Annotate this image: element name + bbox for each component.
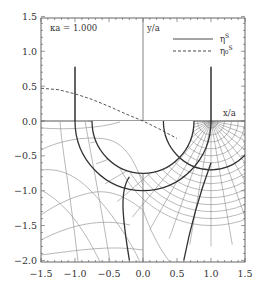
y-tick-label: −0.5	[14, 150, 37, 161]
y-tick-label: 1.5	[22, 11, 37, 22]
x-tick-label: 1.5	[237, 268, 252, 279]
x-tick-label: −1.0	[63, 268, 86, 279]
y-axis-label: y/a	[146, 23, 160, 33]
y-tick-label: 1.0	[22, 46, 37, 57]
y-tick-label: 0.5	[22, 81, 37, 92]
x-tick-label: −0.5	[97, 268, 120, 279]
y-tick-label: −1.0	[14, 185, 37, 196]
x-tick-label: 1.0	[203, 268, 218, 279]
y-tick-label: 0.0	[22, 116, 37, 127]
kappa-annotation: κa = 1.000	[50, 23, 97, 33]
x-axis-label: x/a	[223, 108, 236, 118]
y-tick-label: −2.0	[14, 255, 37, 266]
x-tick-label: 0.0	[135, 268, 150, 279]
chart-figure: −1.5−1.0−0.50.00.51.01.51.51.00.50.0−0.5…	[0, 0, 263, 293]
x-tick-label: −1.5	[29, 268, 52, 279]
y-tick-label: −1.5	[14, 220, 37, 231]
x-tick-label: 0.5	[169, 268, 184, 279]
